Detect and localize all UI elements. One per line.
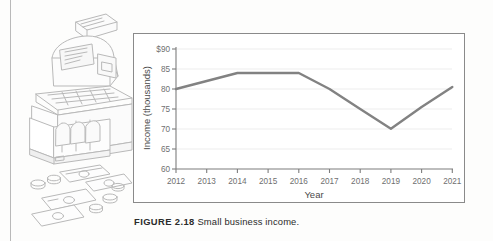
chart-data-line [176,73,452,129]
banknotes [32,165,132,226]
figure-caption-label: FIGURE 2.18 [134,216,195,227]
x-tick-label: 2014 [228,177,247,186]
y-tick-label: 85 [161,65,171,74]
y-tick-label: 75 [161,105,171,114]
figure-box: $90 85 80 75 70 65 60 2012 2013 2014 201… [133,33,465,203]
y-tick-label: 65 [161,145,171,154]
chart-x-axis-title: Year [304,189,323,200]
x-tick-label: 2021 [443,177,462,186]
x-tick-label: 2020 [412,177,431,186]
x-tick-label: 2015 [259,177,278,186]
receipt-block-icon [76,14,117,39]
x-tick-label: 2012 [167,177,186,186]
line-chart: $90 85 80 75 70 65 60 2012 2013 2014 201… [134,34,464,202]
cash-register-sketch [14,2,134,241]
receipt-printer [98,54,116,78]
chart-x-tick-labels: 2012 2013 2014 2015 2016 2017 2018 2019 … [167,177,462,186]
figure-caption-text: Small business income. [197,216,299,227]
x-tick-label: 2019 [382,177,401,186]
page-margin-rule [10,0,11,241]
chart-axes [176,47,453,169]
chart-y-axis-title: Income (thousands) [141,66,152,150]
chart-x-ticks [176,169,452,173]
y-tick-label: 70 [161,125,171,134]
y-tick-label: 60 [161,165,171,174]
chart-gridlines [176,49,452,149]
y-tick-label: $90 [156,45,170,54]
chart-y-ticks [172,49,176,169]
figure-caption: FIGURE 2.18 Small business income. [134,216,464,227]
x-tick-label: 2013 [198,177,217,186]
x-tick-label: 2016 [290,177,309,186]
chart-y-tick-labels: $90 85 80 75 70 65 60 [156,45,170,174]
x-tick-label: 2017 [320,177,339,186]
y-tick-label: 80 [161,85,171,94]
cash-drawer [30,118,110,164]
x-tick-label: 2018 [351,177,370,186]
